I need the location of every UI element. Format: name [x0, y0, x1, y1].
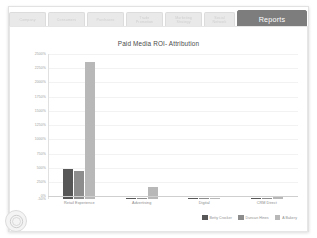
- bar[interactable]: [126, 198, 136, 199]
- legend-swatch-icon: [202, 215, 208, 221]
- bar[interactable]: [137, 198, 147, 199]
- zero-baseline: [48, 196, 298, 197]
- report-chart-panel: Paid Media ROI- Attribution 2500%2250%20…: [9, 26, 308, 232]
- legend-swatch-icon: [275, 215, 281, 221]
- y-axis-tick-labels: 2500%2250%2000%1750%1500%1250%1000%750%5…: [26, 54, 48, 199]
- bars-container: [48, 54, 298, 199]
- bar[interactable]: [74, 171, 84, 199]
- tab-label: Purchases: [97, 19, 115, 23]
- bar[interactable]: [148, 187, 158, 199]
- bar[interactable]: [262, 198, 272, 199]
- tab-label: Consumers: [57, 19, 76, 23]
- y-axis-tick: -50%: [38, 197, 46, 201]
- application-window: CompanyConsumersPurchasesTrade Promotion…: [0, 0, 317, 238]
- x-axis-label: Advertising: [132, 201, 151, 205]
- legend-item[interactable]: Betty Crocker: [202, 215, 232, 221]
- company-logo-badge[interactable]: [5, 210, 27, 232]
- x-axis-category-labels: Retail ExperienceAdvertisingDigitalCRM D…: [48, 201, 298, 211]
- y-axis-tick: 2250%: [35, 66, 46, 70]
- bar[interactable]: [210, 198, 220, 199]
- x-axis-label: Digital: [199, 201, 210, 205]
- bar[interactable]: [273, 197, 283, 199]
- legend-label: A Bakery: [282, 216, 297, 220]
- chart-plot-area: 2500%2250%2000%1750%1500%1250%1000%750%5…: [26, 54, 298, 199]
- y-axis-tick: 1750%: [35, 95, 46, 99]
- bar-group: [236, 57, 299, 199]
- bar[interactable]: [85, 62, 95, 199]
- tab-label: Trade Promotion: [136, 17, 153, 25]
- company-logo-icon: [9, 214, 24, 229]
- tab-label: Reports: [259, 16, 286, 24]
- bar[interactable]: [188, 198, 198, 199]
- tab-label: Social Network: [213, 17, 227, 25]
- y-axis-tick: 2000%: [35, 80, 46, 84]
- chart-title: Paid Media ROI- Attribution: [10, 40, 307, 47]
- y-axis-tick: 500%: [37, 166, 46, 170]
- legend-item[interactable]: A Bakery: [275, 215, 297, 221]
- legend-swatch-icon: [238, 215, 244, 221]
- tab-label: Company: [19, 19, 35, 23]
- legend-label: Duncan Hines: [246, 216, 269, 220]
- y-axis-tick: 1250%: [35, 123, 46, 127]
- chart-legend: Betty CrockerDuncan HinesA Bakery: [202, 213, 297, 222]
- legend-label: Betty Crocker: [210, 216, 232, 220]
- x-axis-label: Retail Experience: [64, 201, 95, 205]
- bar[interactable]: [199, 198, 209, 199]
- y-axis-tick: 250%: [37, 180, 46, 184]
- y-axis-tick: 1500%: [35, 109, 46, 113]
- y-axis-tick: 2500%: [35, 52, 46, 56]
- bar-group: [173, 57, 236, 199]
- y-axis-tick: 1000%: [35, 137, 46, 141]
- tab-label: Marketing Strategy: [175, 17, 192, 25]
- bar[interactable]: [63, 169, 73, 199]
- bar-group: [111, 57, 174, 199]
- bar[interactable]: [251, 198, 261, 199]
- legend-item[interactable]: Duncan Hines: [238, 215, 269, 221]
- x-axis-label: CRM Direct: [257, 201, 277, 205]
- bar-group: [48, 57, 111, 199]
- y-axis-tick: 750%: [37, 152, 46, 156]
